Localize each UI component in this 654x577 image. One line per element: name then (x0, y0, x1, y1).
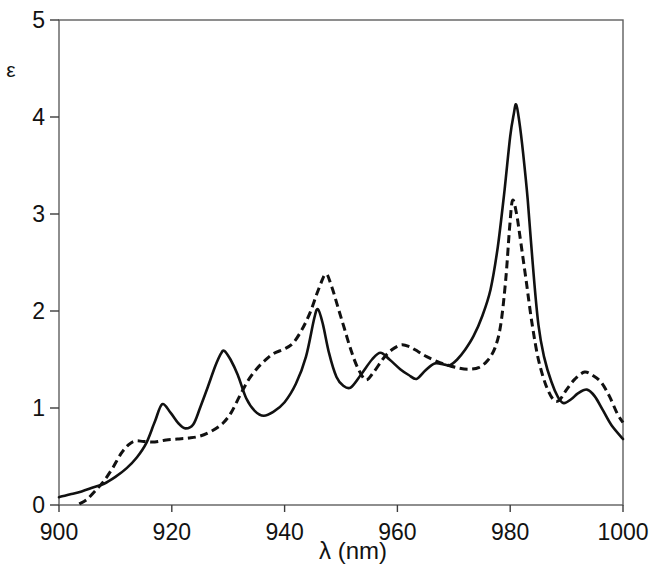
dashed-curve (79, 200, 623, 504)
x-tick-label: 1000 (597, 519, 648, 545)
x-tick-label: 920 (153, 519, 191, 545)
spectrum-chart: 9009209409609801000012345λ (nm)ε (0, 0, 654, 577)
y-tick-label: 0 (32, 492, 45, 518)
x-axis-label: λ (nm) (319, 537, 387, 564)
figure-page: 9009209409609801000012345λ (nm)ε (0, 0, 654, 577)
y-axis-label: ε (6, 58, 15, 81)
plot-frame (59, 20, 623, 505)
y-tick-label: 1 (32, 395, 45, 421)
y-tick-label: 2 (32, 298, 45, 324)
solid-curve (59, 104, 623, 497)
y-tick-label: 4 (32, 104, 45, 130)
x-tick-label: 940 (265, 519, 303, 545)
y-tick-label: 5 (32, 7, 45, 33)
x-tick-label: 900 (40, 519, 78, 545)
x-tick-label: 980 (491, 519, 529, 545)
y-tick-label: 3 (32, 201, 45, 227)
